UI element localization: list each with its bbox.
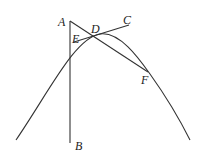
line-af bbox=[70, 21, 148, 72]
line-ec bbox=[74, 25, 129, 42]
label-c: C bbox=[123, 13, 132, 27]
label-f: F bbox=[140, 73, 149, 87]
label-b: B bbox=[75, 139, 83, 153]
geometry-diagram: A B C D E F bbox=[0, 0, 206, 158]
parabola-curve bbox=[16, 34, 190, 140]
label-a: A bbox=[57, 15, 66, 29]
label-d: D bbox=[90, 22, 100, 36]
label-e: E bbox=[71, 32, 80, 46]
